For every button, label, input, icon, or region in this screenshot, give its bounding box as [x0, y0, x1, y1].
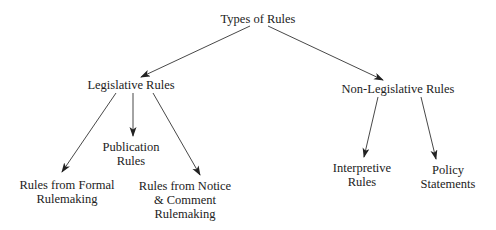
node-types-of-rules: Types of Rules	[221, 12, 296, 26]
node-label-line: Rules from Notice	[139, 179, 231, 193]
node-publication-rules: Publication Rules	[103, 140, 160, 168]
node-label-line: Rules	[333, 175, 391, 189]
node-label-line: Rules from Formal	[19, 178, 114, 192]
edge-root-non-legislative	[268, 26, 383, 80]
node-legislative-rules: Legislative Rules	[87, 78, 174, 92]
node-label-line: Interpretive	[333, 161, 391, 175]
edge-non-legislative-interpretive	[364, 97, 378, 157]
node-label-line: Rulemaking	[139, 207, 231, 221]
edge-non-legislative-policy	[421, 97, 436, 159]
node-notice-comment-rulemaking: Rules from Notice & Comment Rulemaking	[139, 179, 231, 221]
node-label: Types of Rules	[221, 12, 296, 26]
node-label-line: Statements	[421, 177, 476, 191]
node-label-line: Rules	[103, 154, 160, 168]
node-label-line: Policy	[421, 163, 476, 177]
edge-legislative-notice-comment	[153, 93, 200, 175]
node-non-legislative-rules: Non-Legislative Rules	[342, 82, 455, 96]
edge-root-legislative	[141, 26, 250, 77]
node-formal-rulemaking: Rules from Formal Rulemaking	[19, 178, 114, 206]
node-interpretive-rules: Interpretive Rules	[333, 161, 391, 189]
node-label-line: & Comment	[139, 193, 231, 207]
node-label: Non-Legislative Rules	[342, 82, 455, 96]
rules-hierarchy-diagram: Types of Rules Legislative Rules Non-Leg…	[0, 0, 496, 230]
node-label-line: Rulemaking	[19, 192, 114, 206]
node-label: Legislative Rules	[87, 78, 174, 92]
node-label-line: Publication	[103, 140, 160, 154]
node-policy-statements: Policy Statements	[421, 163, 476, 191]
